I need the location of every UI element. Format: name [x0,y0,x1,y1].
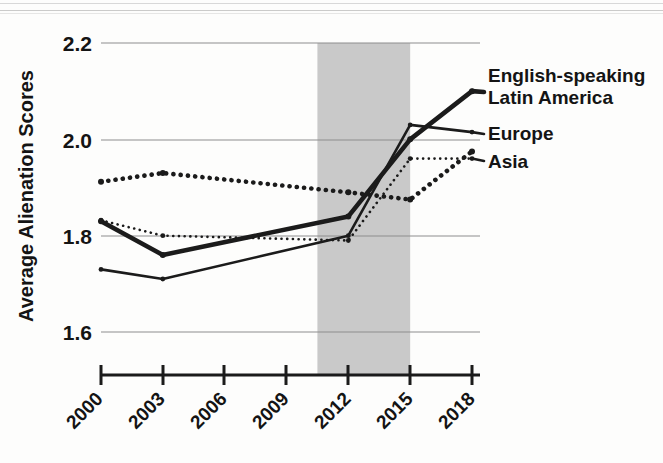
data-point-english-speaking-latin-america-2000 [345,213,351,219]
y-tick-labels-group: 2.2 2.0 1.8 1.6 [63,32,93,344]
data-point-unlabeled-dotted-series-2000 [160,170,166,176]
data-point-unlabeled-dotted-series-2000 [469,148,475,154]
y-tick-label-2-0: 2.0 [63,129,92,152]
legend-leader-line-2 [472,159,484,161]
data-point-unlabeled-dotted-series-2000 [345,189,351,195]
data-point-europe-2000 [408,122,413,127]
legend-leader-line-0 [472,91,484,92]
data-point-europe-2000 [160,277,165,282]
x-tick-label-2012: 2012 [310,388,355,433]
data-point-asia-2000 [160,233,165,238]
data-series-group [98,88,484,281]
x-axis-group [101,365,480,385]
x-tick-label-2018: 2018 [434,388,479,433]
data-point-unlabeled-dotted-series-2000 [407,197,413,203]
data-point-europe-2000 [346,233,351,238]
y-tick-label-1-8: 1.8 [63,225,93,248]
legend-label-latin-america: Latin America [488,87,613,108]
x-tick-label-2006: 2006 [186,388,231,433]
y-tick-label-1-6: 1.6 [63,321,92,344]
x-tick-labels-group: 2000 2003 2006 2009 2012 2015 2018 [62,388,479,433]
legend-leader-line-1 [472,132,484,134]
legend-label-english-speaking: English-speaking [488,65,645,86]
legend-group: English-speaking Latin America Europe As… [488,65,645,172]
y-axis-title: Average Alienation Scores [15,70,37,322]
figure-canvas: 2.2 2.0 1.8 1.6 Average Alienation Score… [0,0,663,463]
data-point-asia-2000 [99,218,104,223]
series-line-europe [101,125,472,279]
x-tick-label-2015: 2015 [372,388,417,433]
x-tick-label-2009: 2009 [248,388,293,433]
data-point-europe-2000 [99,267,104,272]
line-chart: 2.2 2.0 1.8 1.6 Average Alienation Score… [0,0,663,463]
x-tick-label-2003: 2003 [124,388,169,433]
legend-label-europe: Europe [488,123,553,144]
data-point-english-speaking-latin-america-2000 [160,252,166,258]
data-point-english-speaking-latin-america-2000 [407,136,413,142]
data-point-unlabeled-dotted-series-2000 [98,179,104,185]
data-point-asia-2000 [346,238,351,243]
x-tick-label-2000: 2000 [62,388,107,433]
legend-label-asia: Asia [488,151,529,172]
data-point-asia-2000 [408,156,413,161]
y-tick-label-2-2: 2.2 [63,32,92,55]
